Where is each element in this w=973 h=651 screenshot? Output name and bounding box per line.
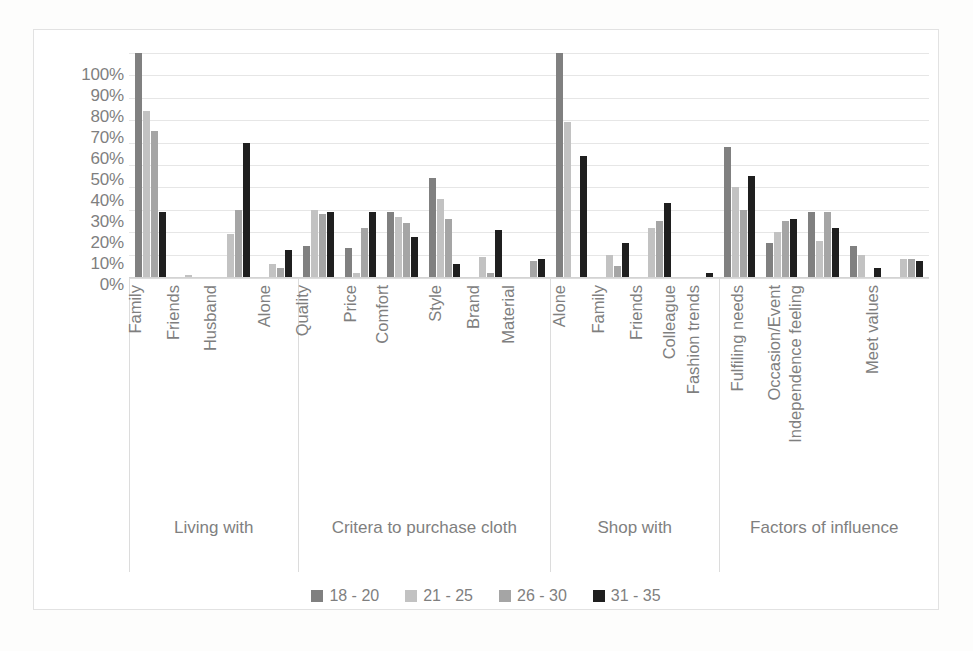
bar[interactable] <box>790 219 797 277</box>
bar[interactable] <box>403 223 410 277</box>
bar[interactable] <box>748 176 755 277</box>
bar[interactable] <box>185 275 192 277</box>
bar[interactable] <box>395 217 402 277</box>
y-axis-tick: 10% <box>42 255 124 272</box>
bar[interactable] <box>732 187 739 277</box>
bar[interactable] <box>766 243 773 277</box>
bar[interactable] <box>411 237 418 277</box>
legend-swatch-icon <box>405 590 417 602</box>
bar[interactable] <box>495 230 502 277</box>
bar[interactable] <box>151 131 158 277</box>
category-label: Alone <box>256 285 273 327</box>
bar-group-shop-with <box>550 53 718 277</box>
legend-item[interactable]: 31 - 35 <box>593 588 661 604</box>
bar[interactable] <box>740 210 747 277</box>
category-label: Friends <box>628 285 645 340</box>
legend-label: 31 - 35 <box>611 588 661 604</box>
bar[interactable] <box>159 212 166 277</box>
group-title: Factors of influence <box>720 517 929 538</box>
chart-screenshot: 100%90%80%70%60%50%40%30%20%10%0% Family… <box>0 0 973 651</box>
bar[interactable] <box>311 210 318 277</box>
bar[interactable] <box>664 203 671 277</box>
category-label: Material <box>500 285 517 344</box>
bar-cluster <box>129 53 171 277</box>
bar[interactable] <box>285 250 292 277</box>
bar[interactable] <box>353 273 360 277</box>
plot-area <box>129 53 929 277</box>
bar[interactable] <box>453 264 460 277</box>
bar[interactable] <box>808 212 815 277</box>
bar-cluster <box>676 53 718 277</box>
bar[interactable] <box>648 228 655 277</box>
bar[interactable] <box>622 243 629 277</box>
bar[interactable] <box>858 255 865 277</box>
bar[interactable] <box>387 212 394 277</box>
bar[interactable] <box>429 178 436 277</box>
bar-cluster <box>508 53 550 277</box>
group-title: Critera to purchase cloth <box>299 517 550 538</box>
bar[interactable] <box>614 266 621 277</box>
legend-item[interactable]: 21 - 25 <box>405 588 473 604</box>
legend-label: 21 - 25 <box>423 588 473 604</box>
legend-item[interactable]: 18 - 20 <box>311 588 379 604</box>
bar[interactable] <box>874 268 881 277</box>
bar-cluster <box>634 53 676 277</box>
bar[interactable] <box>850 246 857 277</box>
bar[interactable] <box>916 261 923 277</box>
bar[interactable] <box>556 53 563 277</box>
bar-cluster <box>171 53 213 277</box>
bar[interactable] <box>437 199 444 277</box>
bar[interactable] <box>538 259 545 277</box>
bar[interactable] <box>782 221 789 277</box>
bar[interactable] <box>445 219 452 277</box>
bar[interactable] <box>832 228 839 277</box>
bar-cluster <box>592 53 634 277</box>
label-group-critera-to-purchase-cloth: QualityPriceComfortStyleBrandMaterialCri… <box>299 279 551 572</box>
bar[interactable] <box>277 268 284 277</box>
bar[interactable] <box>656 221 663 277</box>
bar[interactable] <box>824 212 831 277</box>
bar[interactable] <box>479 257 486 277</box>
bar[interactable] <box>345 248 352 277</box>
bar[interactable] <box>816 241 823 277</box>
bar[interactable] <box>327 212 334 277</box>
category-label: Price <box>343 285 360 323</box>
bar-cluster <box>718 53 760 277</box>
legend-item[interactable]: 26 - 30 <box>499 588 567 604</box>
bar-cluster <box>255 53 297 277</box>
bar[interactable] <box>303 246 310 277</box>
bar[interactable] <box>235 210 242 277</box>
bar[interactable] <box>227 234 234 277</box>
category-label: Brand <box>465 285 482 329</box>
bar[interactable] <box>243 143 250 277</box>
legend-swatch-icon <box>499 590 511 602</box>
y-axis-tick: 90% <box>42 87 124 104</box>
bar[interactable] <box>487 273 494 277</box>
bar[interactable] <box>143 111 150 277</box>
bar[interactable] <box>706 273 713 277</box>
bar[interactable] <box>774 232 781 277</box>
chart-legend: 18 - 2021 - 2526 - 3031 - 35 <box>34 588 938 604</box>
bar[interactable] <box>135 53 142 277</box>
bar[interactable] <box>580 156 587 277</box>
y-axis-tick: 20% <box>42 234 124 251</box>
category-label: Fashion trends <box>686 285 703 394</box>
bar[interactable] <box>724 147 731 277</box>
bar[interactable] <box>564 122 571 277</box>
bar[interactable] <box>319 214 326 277</box>
bars-layer <box>129 53 929 277</box>
bar-cluster <box>424 53 466 277</box>
bar[interactable] <box>606 255 613 277</box>
bar[interactable] <box>900 259 907 277</box>
bar-cluster <box>761 53 803 277</box>
y-axis-tick: 60% <box>42 150 124 167</box>
bar[interactable] <box>361 228 368 277</box>
category-label: Quality <box>294 285 311 336</box>
y-axis-tick: 100% <box>42 66 124 83</box>
bar[interactable] <box>908 259 915 277</box>
bar[interactable] <box>530 261 537 277</box>
bar[interactable] <box>269 264 276 277</box>
bar-cluster <box>382 53 424 277</box>
bar[interactable] <box>369 212 376 277</box>
group-title: Shop with <box>551 517 719 538</box>
